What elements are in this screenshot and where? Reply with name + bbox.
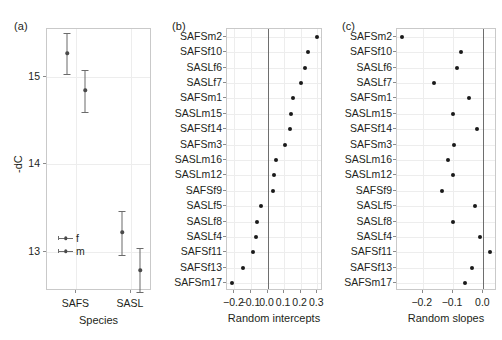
panel-c-point-SAFSf13 <box>470 266 474 270</box>
panel-c-x-tick <box>482 290 483 293</box>
panel-b-row-label-SASLf7: SASLf7 <box>186 76 222 88</box>
panel-c-gridline-row <box>397 268 495 269</box>
panel-c-gridline-row <box>397 206 495 207</box>
panel-a-gridline-y <box>47 77 150 78</box>
panel-c-point-SASLf4 <box>478 235 482 239</box>
panel-c-gridline-row <box>397 283 495 284</box>
panel-b-point-SAFSf11 <box>251 250 255 254</box>
panel-c-row-label-SASLm15: SASLm15 <box>345 107 392 119</box>
panel-a-errorbar-cap <box>137 248 144 249</box>
panel-c-y-tick <box>393 251 396 252</box>
panel-c-point-SAFSm1 <box>467 96 471 100</box>
panel-b-gridline-row <box>227 283 321 284</box>
panel-c-point-SASLf8 <box>451 220 455 224</box>
figure-canvas: (a) Species -dC fm 131415SAFSSASL (b) Ra… <box>0 0 502 340</box>
panel-c-y-tick <box>393 174 396 175</box>
panel-b-gridline-row <box>227 83 321 84</box>
panel-c-gridline-row <box>397 129 495 130</box>
panel-c-x-tick-label: −0.2 <box>411 296 432 308</box>
panel-b-x-axis-title: Random intercepts <box>226 312 322 324</box>
panel-b-y-tick <box>223 236 226 237</box>
panel-b-zero-reference-line <box>268 29 269 289</box>
panel-c-y-tick <box>393 282 396 283</box>
panel-b-point-SASLm12 <box>272 173 276 177</box>
panel-c-gridline-row <box>397 114 495 115</box>
panel-c-row-label-SAFSf9: SAFSf9 <box>356 184 392 196</box>
panel-b-x-tick <box>283 290 284 293</box>
panel-c-row-label-SASLm12: SASLm12 <box>345 168 392 180</box>
panel-a-x-axis-title: Species <box>46 314 151 326</box>
panel-b-point-SASLf6 <box>303 66 307 70</box>
panel-c-gridline-row <box>397 83 495 84</box>
panel-a-y-tick-label: 13 <box>16 245 40 257</box>
panel-a-legend-label-m: m <box>76 246 85 257</box>
panel-c-gridline-row <box>397 191 495 192</box>
panel-b-row-label-SASLm15: SASLm15 <box>175 107 222 119</box>
panel-c-row-label-SASLf4: SASLf4 <box>356 230 392 242</box>
panel-a-tag: (a) <box>14 20 28 32</box>
panel-b-x-tick-label: −0.1 <box>240 296 261 308</box>
panel-c-y-tick <box>393 128 396 129</box>
panel-b-plot-area <box>226 28 322 290</box>
panel-b-x-tick-label: 0.3 <box>309 296 324 308</box>
panel-c-row-label-SASLf8: SASLf8 <box>356 215 392 227</box>
panel-c-point-SAFSf14 <box>475 127 479 131</box>
panel-c-point-SAFSf9 <box>440 189 444 193</box>
panel-b-point-SASLm15 <box>289 112 293 116</box>
panel-b-row-label-SASLm12: SASLm12 <box>175 168 222 180</box>
panel-c-point-SASLm16 <box>446 158 450 162</box>
panel-b-x-tick <box>233 290 234 293</box>
panel-c-y-tick <box>393 205 396 206</box>
panel-c-point-SAFSf11 <box>488 250 492 254</box>
panel-c-x-tick-label: 0.0 <box>475 296 490 308</box>
panel-c-row-label-SAFSm1: SAFSm1 <box>350 91 392 103</box>
panel-a-x-tick <box>75 290 76 293</box>
panel-a-legend-marker-f <box>58 238 73 239</box>
panel-b-point-SASLm16 <box>274 158 278 162</box>
panel-b-point-SASLf7 <box>299 81 303 85</box>
panel-a-legend-item-m: m <box>58 246 85 256</box>
panel-b-gridline-row <box>227 98 321 99</box>
panel-c-y-tick <box>393 36 396 37</box>
panel-a-legend-label-f: f <box>76 233 79 244</box>
panel-c-x-tick-label: −0.1 <box>442 296 463 308</box>
panel-c-row-label-SASLm16: SASLm16 <box>345 153 392 165</box>
panel-b-gridline-row <box>227 129 321 130</box>
panel-b-y-tick <box>223 82 226 83</box>
panel-a-category-label-SASL: SASL <box>117 297 144 309</box>
panel-a-errorbar-cap <box>64 33 71 34</box>
panel-b-y-tick <box>223 113 226 114</box>
panel-a-point-m-SAFS <box>84 88 88 92</box>
panel-c-row-label-SAFSf10: SAFSf10 <box>350 45 392 57</box>
panel-a-x-tick <box>130 290 131 293</box>
panel-b-point-SASLf5 <box>259 204 263 208</box>
panel-c-gridline-x <box>423 29 424 289</box>
panel-b-x-tick <box>300 290 301 293</box>
panel-c-row-label-SASLf6: SASLf6 <box>356 61 392 73</box>
panel-a-errorbar-cap <box>119 255 126 256</box>
panel-c-point-SASLf6 <box>455 66 459 70</box>
panel-b-gridline-row <box>227 37 321 38</box>
panel-b-y-tick <box>223 67 226 68</box>
panel-c-y-tick <box>393 144 396 145</box>
panel-c-row-label-SAFSm3: SAFSm3 <box>350 138 392 150</box>
panel-a-errorbar-cap <box>119 211 126 212</box>
panel-b-gridline-row <box>227 206 321 207</box>
panel-c-x-tick <box>452 290 453 293</box>
panel-a-y-tick-label: 14 <box>16 157 40 169</box>
panel-c-plot-area <box>396 28 496 290</box>
panel-a-point-f-SASL <box>120 231 124 235</box>
panel-c-point-SASLm15 <box>451 112 455 116</box>
panel-b-point-SAFSf9 <box>271 189 275 193</box>
panel-c-y-tick <box>393 67 396 68</box>
panel-b-gridline-row <box>227 114 321 115</box>
panel-b-y-tick <box>223 144 226 145</box>
panel-b-row-label-SAFSf9: SAFSf9 <box>186 184 222 196</box>
panel-b-y-tick <box>223 267 226 268</box>
panel-b-y-tick <box>223 97 226 98</box>
panel-a-errorbar-cap <box>137 292 144 293</box>
panel-c-y-tick <box>393 236 396 237</box>
panel-c-point-SAFSm2 <box>400 35 404 39</box>
panel-c-row-label-SAFSf11: SAFSf11 <box>351 245 392 257</box>
panel-b-y-tick <box>223 128 226 129</box>
